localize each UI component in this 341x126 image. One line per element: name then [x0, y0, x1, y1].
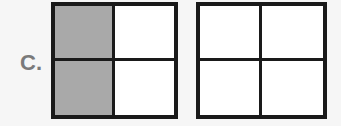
fraction-diagram: C. — [0, 0, 341, 126]
left-square-top-left-cell-shaded — [55, 6, 115, 61]
left-square — [51, 2, 178, 119]
right-square-bottom-left-cell — [200, 61, 262, 116]
right-square-top-left-cell — [200, 6, 262, 61]
left-square-bottom-right-cell — [115, 61, 175, 116]
option-label: C. — [20, 52, 42, 74]
right-square-bottom-right-cell — [262, 61, 324, 116]
left-square-bottom-left-cell-shaded — [55, 61, 115, 116]
right-square-top-right-cell — [262, 6, 324, 61]
left-square-top-right-cell — [115, 6, 175, 61]
right-square — [196, 2, 327, 119]
